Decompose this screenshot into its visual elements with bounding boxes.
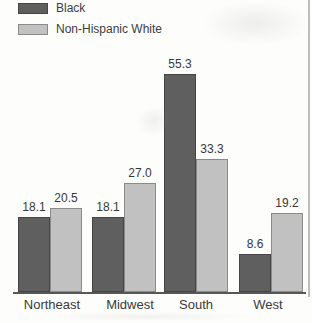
bar-non-hispanic-white-west	[271, 213, 303, 292]
category-label-west: West	[223, 297, 312, 312]
bar-black-south	[164, 74, 196, 292]
bar-non-hispanic-white-south	[196, 159, 228, 292]
value-label-non-hispanic-white-west: 19.2	[261, 196, 312, 210]
value-label-black-south: 55.3	[154, 57, 206, 71]
bar-non-hispanic-white-midwest	[124, 183, 156, 292]
scanned-bar-chart-figure: Black Non-Hispanic White 18.120.5Northea…	[0, 0, 312, 323]
bar-black-northeast	[18, 217, 50, 292]
bar-non-hispanic-white-northeast	[50, 208, 82, 292]
value-label-non-hispanic-white-midwest: 27.0	[114, 166, 166, 180]
x-axis-line	[13, 292, 306, 294]
value-label-non-hispanic-white-south: 33.3	[186, 142, 238, 156]
bar-chart-plot-area: 18.120.5Northeast18.127.0Midwest55.333.3…	[0, 0, 312, 323]
scan-edge-shadow	[308, 0, 310, 297]
bar-black-west	[239, 254, 271, 292]
category-label-northeast: Northeast	[7, 297, 97, 312]
bar-black-midwest	[92, 217, 124, 292]
